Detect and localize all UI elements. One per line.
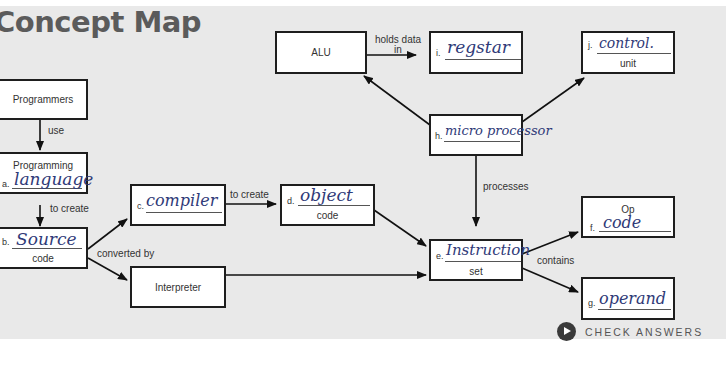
- node-alu: ALU: [275, 31, 367, 74]
- answer-line-e: [445, 261, 521, 262]
- node-instruction-set: e. Instruction set: [429, 239, 523, 281]
- answer-j[interactable]: control.: [599, 35, 654, 51]
- answer-d[interactable]: object: [300, 185, 353, 205]
- answer-line-h: [444, 141, 520, 142]
- answer-line-i: [445, 59, 521, 60]
- edge-label-converted-by: converted by: [97, 248, 154, 259]
- node-microprocessor: h. micro processor: [429, 114, 523, 156]
- answer-i[interactable]: regstar: [447, 37, 510, 57]
- node-object-code: d. object code: [280, 184, 375, 226]
- answer-a[interactable]: language: [14, 169, 93, 189]
- answer-line-c: [146, 212, 222, 213]
- answer-line-j: [597, 53, 671, 54]
- node-compiler: c. compiler: [130, 184, 226, 226]
- node-register: i. regstar: [429, 31, 523, 74]
- answer-f[interactable]: code: [603, 213, 641, 232]
- edge-label-contains: contains: [537, 255, 574, 266]
- answer-h[interactable]: micro processor: [445, 123, 552, 138]
- edge-label-processes: processes: [483, 181, 529, 192]
- node-programmers: Programmers: [0, 79, 88, 120]
- node-control-unit: j. control. unit: [581, 31, 675, 74]
- edge-label-to-create-1: to create: [50, 203, 89, 214]
- node-interpreter: Interpreter: [130, 266, 226, 308]
- node-programming-language: Programming a. language: [0, 152, 88, 194]
- edge-label-to-create-2: to create: [230, 189, 269, 200]
- edge-label-in: in: [374, 44, 422, 55]
- check-answers-button[interactable]: CHECK ANSWERS: [557, 322, 703, 341]
- edge-label-use: use: [48, 125, 64, 136]
- play-icon: [557, 322, 576, 341]
- answer-g[interactable]: operand: [599, 289, 666, 308]
- answer-line-d: [298, 205, 370, 206]
- answer-c[interactable]: compiler: [146, 191, 217, 210]
- answer-e[interactable]: Instruction: [446, 241, 530, 259]
- node-op-code: Op f. code: [581, 196, 675, 238]
- node-operand: g. operand: [581, 277, 675, 320]
- answer-b[interactable]: Source: [16, 229, 77, 249]
- node-source-code: b. Source code: [0, 227, 88, 269]
- answer-line-g: [598, 309, 671, 310]
